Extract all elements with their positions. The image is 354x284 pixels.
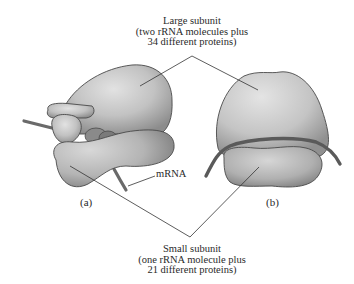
ribosome-diagram: Large subunit (two rRNA molecules plus 3… bbox=[0, 0, 354, 284]
large-subunit-title: Large subunit bbox=[110, 16, 274, 27]
small-subunit-detail-2: 21 different proteins) bbox=[110, 265, 274, 276]
ribosome-side-view bbox=[24, 65, 174, 190]
panel-label-a: (a) bbox=[80, 196, 92, 208]
mrna-leader bbox=[128, 176, 155, 186]
small-subunit-title: Small subunit bbox=[110, 244, 274, 255]
mrna-label: mRNA bbox=[156, 168, 186, 179]
ribosome-front-view bbox=[206, 72, 340, 187]
small-subunit-caption: Small subunit (one rRNA molecule plus 21… bbox=[110, 244, 274, 276]
large-subunit-detail-2: 34 different proteins) bbox=[110, 37, 274, 48]
large-subunit-caption: Large subunit (two rRNA molecules plus 3… bbox=[110, 16, 274, 48]
panel-label-b: (b) bbox=[266, 196, 279, 208]
